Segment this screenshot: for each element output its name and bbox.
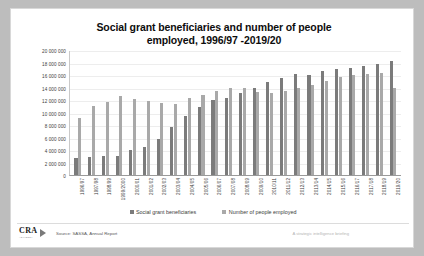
bar-series-1 <box>211 100 214 175</box>
bar-series-2 <box>393 88 396 176</box>
bar-series-2 <box>229 88 232 175</box>
x-axis-tick: 2011/12 <box>276 177 290 211</box>
bar-group <box>359 51 373 175</box>
y-axis: 20 000 00018 000 00016 000 00014 000 000… <box>17 51 69 176</box>
bar-series-2 <box>325 81 328 175</box>
x-axis-tick: 2014/15 <box>318 177 332 211</box>
x-axis-tick: 1996/97 <box>70 177 84 211</box>
chart-legend: Social grant beneficiariesNumber of peop… <box>17 209 409 215</box>
bar-series-2 <box>92 106 95 175</box>
x-axis-tick: 2019/20 <box>386 177 400 211</box>
bar-group <box>331 51 345 175</box>
bar-series-1 <box>335 69 338 175</box>
y-axis-tick-label: 6 000 000 <box>45 136 66 141</box>
chart-title: Social grant beneficiaries and number of… <box>47 21 381 47</box>
legend-swatch-icon <box>222 210 226 214</box>
x-axis-tick: 2005/06 <box>194 177 208 211</box>
footer-tagline: A strategic intelligence briefing <box>292 231 349 236</box>
y-axis-tick-label: 12 000 000 <box>42 99 66 104</box>
x-axis-tick: 2016/17 <box>345 177 359 211</box>
bar-series-1 <box>74 158 77 176</box>
bar-series-1 <box>198 107 201 175</box>
bar-series-2 <box>297 88 300 176</box>
bar-series-1 <box>184 116 187 175</box>
bar-series-2 <box>201 95 204 175</box>
x-axis-tick: 2002/03 <box>153 177 167 211</box>
bar-series-2 <box>119 96 122 175</box>
x-axis-tick: 1999/2000 <box>111 177 125 211</box>
bar-series-2 <box>352 75 355 175</box>
plot-area <box>69 51 401 176</box>
chart-title-line-1: Social grant beneficiaries and number of… <box>47 21 381 34</box>
bar-group <box>304 51 318 175</box>
bar-series-2 <box>215 91 218 175</box>
bar-series-2 <box>366 74 369 175</box>
bar-series-2 <box>188 98 191 175</box>
bar-group <box>386 51 400 175</box>
bar-series-2 <box>133 99 136 175</box>
legend-item[interactable]: Number of people employed <box>222 209 296 215</box>
bar-group <box>249 51 263 175</box>
bar-series-1 <box>376 64 379 175</box>
x-axis-tick: 1997/98 <box>84 177 98 211</box>
bar-groups <box>70 51 401 175</box>
bar-group <box>263 51 277 175</box>
bar-series-2 <box>256 92 259 175</box>
bar-series-1 <box>266 82 269 175</box>
x-axis-tick: 2015/16 <box>331 177 345 211</box>
x-axis-tick: 2012/13 <box>290 177 304 211</box>
bar-series-1 <box>362 66 365 175</box>
bar-series-1 <box>116 156 119 175</box>
y-axis-tick-label: 2 000 000 <box>45 161 66 166</box>
legend-label: Social grant beneficiaries <box>136 209 196 215</box>
bar-series-1 <box>280 78 283 176</box>
bar-group <box>112 51 126 175</box>
bar-series-1 <box>307 75 310 175</box>
bar-series-1 <box>390 61 393 175</box>
bar-series-1 <box>239 93 242 175</box>
y-axis-tick-label: 8 000 000 <box>45 124 66 129</box>
bar-series-1 <box>253 88 256 175</box>
plot-area-wrapper: 20 000 00018 000 00016 000 00014 000 000… <box>17 51 409 186</box>
y-axis-tick-label: 10 000 000 <box>42 111 66 116</box>
x-axis-tick: 2003/04 <box>166 177 180 211</box>
logo-text: CRA <box>19 227 38 235</box>
x-axis-tick: 1998/99 <box>98 177 112 211</box>
bar-group <box>181 51 195 175</box>
x-axis-tick: 2006/07 <box>208 177 222 211</box>
logo-subtitle: ADVISORY <box>19 236 38 239</box>
bar-series-1 <box>170 127 173 175</box>
bar-series-1 <box>157 139 160 175</box>
bar-series-2 <box>243 88 246 176</box>
x-axis-tick: 2013/14 <box>304 177 318 211</box>
bar-series-2 <box>174 104 177 175</box>
y-axis-tick-label: 4 000 000 <box>45 149 66 154</box>
legend-item[interactable]: Social grant beneficiaries <box>130 209 197 215</box>
bar-group <box>85 51 99 175</box>
bar-series-2 <box>270 93 273 175</box>
legend-swatch-icon <box>130 210 134 214</box>
bar-group <box>290 51 304 175</box>
bar-group <box>98 51 112 175</box>
x-axis-tick: 2018/19 <box>373 177 387 211</box>
y-axis-tick-label: 20 000 000 <box>42 49 66 54</box>
bar-group <box>277 51 291 175</box>
bar-series-2 <box>78 118 81 176</box>
y-axis-tick-label: 0 <box>63 174 66 179</box>
bar-series-1 <box>129 150 132 175</box>
bar-series-2 <box>160 103 163 176</box>
x-axis-tick: 2001/02 <box>139 177 153 211</box>
bar-series-2 <box>380 73 383 176</box>
bar-group <box>222 51 236 175</box>
bar-group <box>153 51 167 175</box>
bar-series-2 <box>147 101 150 175</box>
slide-footer: CRA ADVISORY Source: SASSA, Annual Repor… <box>17 223 409 242</box>
slide-canvas: Social grant beneficiaries and number of… <box>10 8 414 248</box>
bar-series-2 <box>284 91 287 175</box>
bar-series-1 <box>349 68 352 176</box>
x-axis-tick: 2010/11 <box>263 177 277 211</box>
bar-group <box>194 51 208 175</box>
bar-group <box>126 51 140 175</box>
bar-group <box>71 51 85 175</box>
x-axis-tick-label: 2019/20 <box>396 178 401 195</box>
